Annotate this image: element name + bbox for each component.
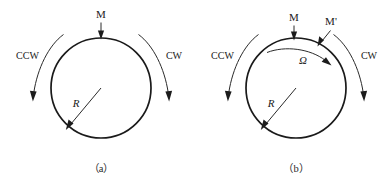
- panel-b-moment-prime-label: M': [325, 15, 337, 27]
- panel-b-omega-label: Ω: [299, 54, 307, 66]
- panel-a-radius-label: R: [72, 97, 80, 109]
- panel-b-ccw-label: CCW: [211, 50, 234, 61]
- panel-b-cw-label: CW: [361, 50, 378, 61]
- panel-a-radius-arrow: [66, 88, 101, 130]
- panel-b-moment-prime-arrow: [318, 31, 331, 47]
- panel-b-moment-label: M: [289, 11, 299, 23]
- panel-a-cw-label: CW: [166, 50, 183, 61]
- panel-b-ccw-arc-arrow: [225, 35, 259, 102]
- panel-a-caption: （a）: [89, 163, 114, 174]
- panel-a-ccw-label: CCW: [16, 50, 39, 61]
- panel-b-cw-arc-arrow: [334, 35, 368, 102]
- panel-b-radius-label: R: [267, 97, 275, 109]
- panel-b-radius-arrow: [261, 88, 296, 130]
- diagram-canvas: M CCW CW R （a）: [0, 0, 388, 186]
- panel-a-moment-label: M: [96, 8, 106, 20]
- panel-a-ccw-arc-arrow: [30, 35, 64, 102]
- panel-a-moment-arrow: [98, 23, 104, 40]
- panel-b: M M' CCW CW Ω: [211, 11, 378, 174]
- figure-root: M CCW CW R （a）: [0, 0, 388, 186]
- panel-b-caption: （b）: [283, 163, 308, 174]
- panel-a-cw-arc-arrow: [139, 35, 173, 102]
- panel-a: M CCW CW R （a）: [16, 8, 183, 174]
